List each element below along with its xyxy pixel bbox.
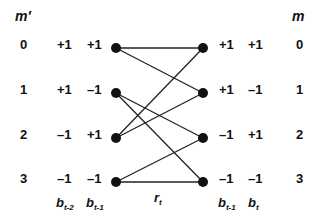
edge-1-3	[116, 93, 203, 182]
right-b1-0: +1	[219, 38, 234, 51]
right-b2-0: +1	[248, 38, 263, 51]
right-b2-1: –1	[248, 83, 262, 96]
right-col-label-b2: bt	[248, 196, 259, 212]
right-node-0	[198, 43, 208, 53]
edge-3-2	[116, 138, 203, 182]
left-node-3	[111, 177, 121, 187]
left-node-1	[111, 88, 121, 98]
right-b1-1: +1	[219, 83, 234, 96]
left-b1-1: +1	[57, 83, 72, 96]
right-b1-2: –1	[219, 128, 233, 141]
left-b1-2: –1	[57, 128, 71, 141]
right-index-2: 2	[296, 128, 303, 141]
right-node-3	[198, 177, 208, 187]
left-b1-0: +1	[57, 38, 72, 51]
branch-label: rt	[154, 191, 162, 207]
edge-2-0	[116, 48, 203, 138]
right-b1-3: –1	[219, 172, 233, 185]
right-index-0: 0	[296, 38, 303, 51]
left-header: m′	[15, 9, 31, 23]
right-b2-2: +1	[248, 128, 263, 141]
right-b2-3: –1	[248, 172, 262, 185]
left-node-2	[111, 133, 121, 143]
left-index-2: 2	[20, 128, 27, 141]
right-node-2	[198, 133, 208, 143]
left-b2-3: –1	[87, 172, 101, 185]
left-b2-0: +1	[87, 38, 102, 51]
left-index-0: 0	[20, 38, 27, 51]
right-header: m	[292, 9, 304, 23]
left-b2-1: –1	[87, 83, 101, 96]
left-b1-3: –1	[57, 172, 71, 185]
right-index-1: 1	[296, 83, 303, 96]
right-node-1	[198, 88, 208, 98]
edge-0-1	[116, 48, 203, 93]
left-col-label-b2: bt-1	[86, 196, 104, 212]
left-col-label-b1: bt-2	[56, 196, 74, 212]
right-index-3: 3	[296, 172, 303, 185]
left-b2-2: +1	[87, 128, 102, 141]
left-index-3: 3	[20, 172, 27, 185]
left-index-1: 1	[20, 83, 27, 96]
left-node-0	[111, 43, 121, 53]
right-col-label-b1: bt-1	[218, 196, 236, 212]
trellis-edges	[0, 0, 322, 220]
